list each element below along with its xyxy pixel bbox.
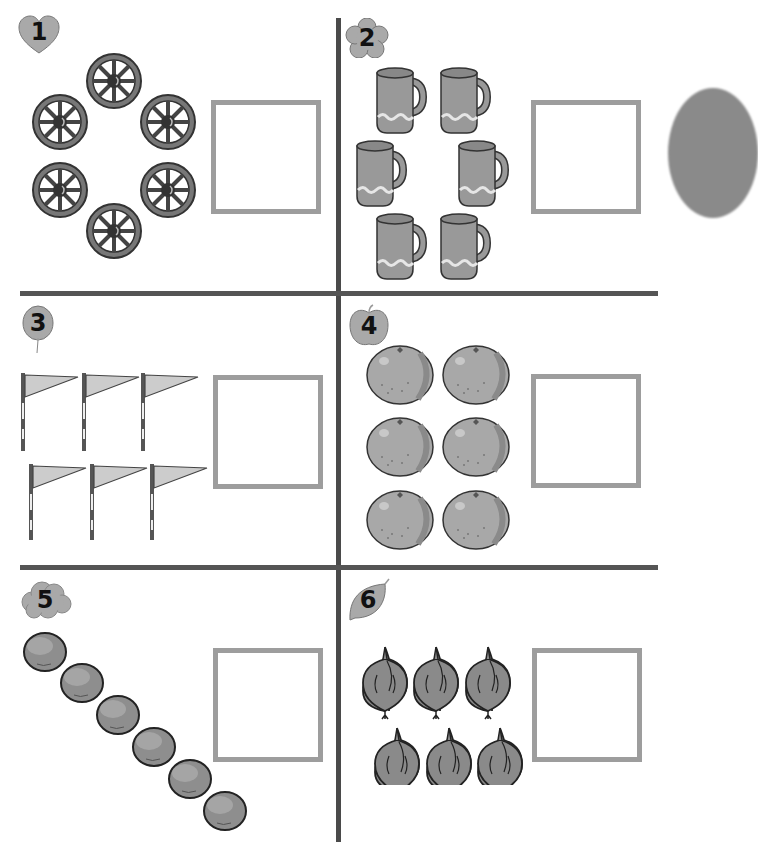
mug-group bbox=[355, 62, 525, 287]
wagon-wheel-icon bbox=[33, 95, 87, 149]
answer-box-2[interactable] bbox=[531, 100, 641, 214]
horizontal-divider-2 bbox=[20, 565, 658, 570]
flag-icon bbox=[21, 373, 78, 451]
mug-icon bbox=[377, 214, 423, 279]
flag-icon bbox=[141, 373, 198, 451]
flower-badge: 2 bbox=[345, 18, 389, 58]
orange-icon bbox=[367, 491, 433, 549]
wagon-wheel-icon bbox=[87, 54, 141, 108]
section-number: 2 bbox=[345, 18, 389, 58]
answer-box-6[interactable] bbox=[532, 648, 642, 762]
orange-icon bbox=[367, 418, 433, 476]
leaf-badge: 6 bbox=[347, 578, 391, 626]
edge-decoration bbox=[668, 88, 758, 218]
answer-box-3[interactable] bbox=[213, 375, 323, 489]
section-number: 4 bbox=[347, 306, 391, 346]
balloon-badge: 3 bbox=[17, 305, 61, 363]
section-number: 1 bbox=[17, 12, 61, 52]
flag-icon bbox=[90, 464, 147, 540]
orange-icon bbox=[443, 346, 509, 404]
flag-group bbox=[18, 370, 218, 540]
mug-icon bbox=[357, 141, 403, 206]
orange-icon bbox=[443, 418, 509, 476]
section-number: 3 bbox=[16, 303, 60, 343]
flag-icon bbox=[29, 464, 86, 540]
onion-icon bbox=[427, 728, 471, 785]
mug-icon bbox=[441, 68, 487, 133]
wagon-wheel-icon bbox=[141, 163, 195, 217]
wagon-wheel-icon bbox=[141, 95, 195, 149]
onion-icon bbox=[466, 647, 510, 719]
onion-icon bbox=[375, 728, 419, 785]
wagon-wheel-group bbox=[25, 50, 205, 270]
apple-badge: 4 bbox=[347, 303, 391, 343]
onion-group bbox=[355, 635, 525, 785]
plum-icon bbox=[204, 792, 246, 830]
onion-icon bbox=[414, 647, 458, 719]
onion-icon bbox=[363, 647, 407, 719]
plum-icon bbox=[24, 633, 66, 671]
horizontal-divider-1 bbox=[20, 291, 658, 296]
mug-icon bbox=[377, 68, 423, 133]
onion-icon bbox=[478, 728, 522, 785]
orange-icon bbox=[367, 346, 433, 404]
answer-box-4[interactable] bbox=[531, 374, 641, 488]
plum-icon bbox=[169, 760, 211, 798]
section-number: 6 bbox=[346, 580, 390, 620]
flag-icon bbox=[150, 464, 207, 540]
section-number: 5 bbox=[16, 580, 74, 620]
wagon-wheel-icon bbox=[33, 163, 87, 217]
orange-icon bbox=[443, 491, 509, 549]
plum-icon bbox=[61, 664, 103, 702]
answer-box-1[interactable] bbox=[211, 100, 321, 214]
answer-box-5[interactable] bbox=[213, 648, 323, 762]
mug-icon bbox=[441, 214, 487, 279]
mug-icon bbox=[459, 141, 505, 206]
vertical-divider bbox=[336, 18, 341, 842]
plum-icon bbox=[97, 696, 139, 734]
heart-badge: 1 bbox=[17, 15, 61, 55]
cloud-badge: 5 bbox=[18, 580, 72, 620]
plum-icon bbox=[133, 728, 175, 766]
orange-group bbox=[365, 345, 525, 555]
wagon-wheel-icon bbox=[87, 204, 141, 258]
flag-icon bbox=[82, 373, 139, 451]
